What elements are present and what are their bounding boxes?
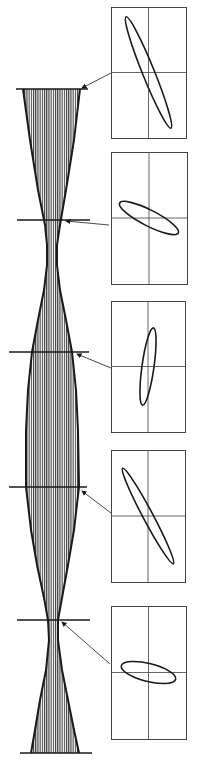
phase-space-panel-4 xyxy=(111,450,186,583)
envelope-fill xyxy=(23,89,80,753)
diagram-canvas xyxy=(0,0,199,765)
pointer-arrow-1 xyxy=(82,73,111,88)
pointer-arrow-2 xyxy=(66,221,109,225)
phase-space-panel-5 xyxy=(111,606,187,740)
panel-frame xyxy=(112,153,188,285)
panel-frame xyxy=(112,302,186,433)
pointer-arrow-4 xyxy=(82,491,111,513)
pointer-arrow-3 xyxy=(77,354,111,368)
panel-frame xyxy=(112,607,187,740)
beam-envelope xyxy=(23,89,80,753)
phase-space-panel-3 xyxy=(111,301,186,433)
phase-space-panels xyxy=(111,7,188,740)
panel-frame xyxy=(112,8,187,139)
phase-space-panel-2 xyxy=(111,152,188,285)
phase-space-panel-1 xyxy=(111,7,187,139)
pointer-arrow-5 xyxy=(62,622,110,664)
beam-envelope-diagram: Beam envelope with alternating waists; h… xyxy=(0,0,199,765)
